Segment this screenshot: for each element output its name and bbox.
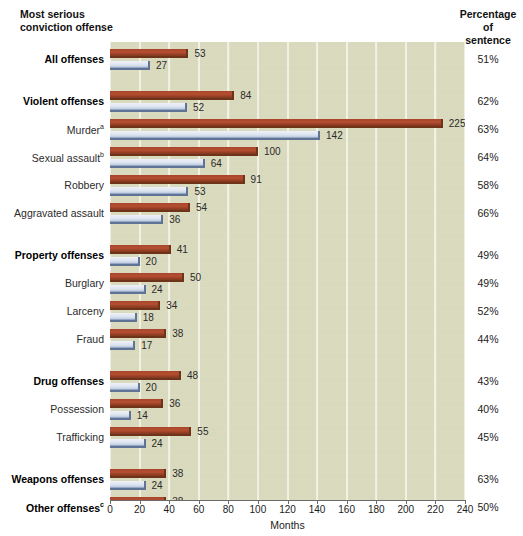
bar-sentence-length	[110, 273, 184, 282]
bar-group: 10064	[110, 146, 465, 172]
bar-value-label: 20	[146, 383, 157, 392]
percentage-of-sentence-value: 66%	[455, 207, 521, 219]
category-label-text: Larceny	[67, 305, 104, 317]
category-label-text: Property offenses	[15, 249, 104, 261]
category-label-text: Burglary	[65, 277, 104, 289]
bar-group: 5524	[110, 426, 465, 452]
x-axis-tick-label: 240	[457, 504, 474, 515]
bar-value-label: 18	[143, 313, 154, 322]
bar-value-label: 24	[152, 439, 163, 448]
bar-group: 5024	[110, 272, 465, 298]
percentage-of-sentence-value: 45%	[455, 431, 521, 443]
bar-sentence-length	[110, 371, 181, 380]
bar-sentence-length	[110, 175, 245, 184]
bar-time-served	[110, 215, 163, 224]
x-axis-tick-label: 160	[338, 504, 355, 515]
bar-value-label: 24	[152, 285, 163, 294]
clipped-caption	[28, 0, 458, 4]
category-label-text: Murder	[67, 124, 100, 136]
bar-time-served	[110, 285, 146, 294]
bar-value-label: 36	[169, 215, 180, 224]
x-axis-tick-label: 200	[397, 504, 414, 515]
bar-time-served	[110, 187, 188, 196]
category-label-text: Weapons offenses	[11, 473, 104, 485]
x-axis-tick-label: 0	[107, 504, 113, 515]
bar-sentence-length	[110, 329, 166, 338]
category-label: Burglary	[0, 277, 104, 289]
category-label-text: Aggravated assault	[14, 207, 104, 219]
percentage-of-sentence-value: 62%	[455, 95, 521, 107]
bar-value-label: 38	[172, 329, 183, 338]
category-label: Drug offenses	[0, 375, 104, 387]
bar-group: 3418	[110, 300, 465, 326]
category-label: Aggravated assault	[0, 207, 104, 219]
category-label: Fraud	[0, 333, 104, 345]
bar-value-label: 20	[146, 257, 157, 266]
bar-value-label: 84	[240, 91, 251, 100]
percentage-of-sentence-value: 49%	[455, 277, 521, 289]
x-axis-tick-label: 80	[223, 504, 234, 515]
footnote-marker: a	[100, 123, 104, 130]
category-label: Property offenses	[0, 249, 104, 261]
bar-value-label: 34	[166, 301, 177, 310]
bar-value-label: 53	[194, 187, 205, 196]
bar-group: 4120	[110, 244, 465, 270]
category-label-text: Other offenses	[26, 502, 100, 514]
category-label: Sexual assaultb	[0, 151, 104, 164]
category-label-text: Fraud	[77, 333, 104, 345]
left-column-heading-line2: conviction offense	[20, 21, 130, 34]
category-label-text: Sexual assault	[32, 152, 100, 164]
bar-sentence-length	[110, 49, 188, 58]
category-label: Violent offenses	[0, 95, 104, 107]
bar-group: 3614	[110, 398, 465, 424]
category-label: Other offensesc	[0, 501, 104, 514]
category-label: Murdera	[0, 123, 104, 136]
bar-sentence-length	[110, 147, 258, 156]
x-axis-tick-label: 180	[368, 504, 385, 515]
percentage-of-sentence-value: 64%	[455, 151, 521, 163]
x-axis-tick-label: 120	[279, 504, 296, 515]
bar-time-served	[110, 383, 140, 392]
bar-value-label: 64	[211, 159, 222, 168]
x-axis-tick-label: 220	[427, 504, 444, 515]
bar-value-label: 142	[326, 131, 343, 140]
bar-value-label: 41	[177, 245, 188, 254]
bar-sentence-length	[110, 203, 190, 212]
bar-value-label: 53	[194, 49, 205, 58]
bar-value-label: 52	[193, 103, 204, 112]
bar-value-label: 50	[190, 273, 201, 282]
percentage-of-sentence-value: 63%	[455, 123, 521, 135]
category-label-text: Possession	[50, 403, 104, 415]
bar-time-served	[110, 257, 140, 266]
bar-time-served	[110, 131, 320, 140]
percentage-of-sentence-value: 52%	[455, 305, 521, 317]
bar-time-served	[110, 439, 146, 448]
bar-value-label: 48	[187, 371, 198, 380]
bar-value-label: 36	[169, 399, 180, 408]
x-axis-tick-label: 20	[134, 504, 145, 515]
bar-time-served	[110, 481, 146, 490]
category-label: Weapons offenses	[0, 473, 104, 485]
x-axis-tick-label: 40	[164, 504, 175, 515]
percentage-of-sentence-value: 43%	[455, 375, 521, 387]
footnote-marker: c	[100, 501, 104, 508]
x-axis-tick-label: 140	[309, 504, 326, 515]
bar-time-served	[110, 411, 131, 420]
bar-time-served	[110, 341, 135, 350]
category-label: Robbery	[0, 179, 104, 191]
x-axis: 020406080100120140160180200220240	[110, 500, 465, 516]
bar-time-served	[110, 159, 205, 168]
bar-sentence-length	[110, 427, 191, 436]
bar-value-label: 24	[152, 481, 163, 490]
x-axis-tick-label: 100	[250, 504, 267, 515]
bar-value-label: 91	[251, 175, 262, 184]
bar-time-served	[110, 103, 187, 112]
bar-value-label: 54	[196, 203, 207, 212]
bar-sentence-length	[110, 245, 171, 254]
category-label: Possession	[0, 403, 104, 415]
bar-group: 5436	[110, 202, 465, 228]
category-label-text: Trafficking	[56, 431, 104, 443]
bar-sentence-length	[110, 469, 166, 478]
percentage-of-sentence-value: 49%	[455, 249, 521, 261]
bar-sentence-length	[110, 301, 160, 310]
